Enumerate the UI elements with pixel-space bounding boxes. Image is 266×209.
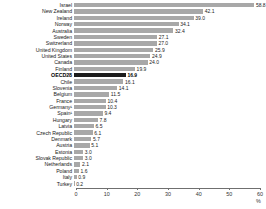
bar-track: 0.2: [74, 181, 266, 187]
x-axis-tick: [260, 188, 261, 190]
bar: [74, 9, 203, 13]
bar: [74, 130, 93, 134]
bar: [74, 111, 103, 115]
x-axis: 0102030405060: [76, 188, 260, 189]
x-axis-tick: [168, 188, 169, 190]
bar: [74, 143, 90, 147]
category-label: Turkey: [0, 181, 74, 187]
bar: [74, 41, 157, 45]
bar: [74, 124, 94, 128]
x-axis-tick-label: 10: [104, 191, 110, 197]
x-axis-tick: [76, 188, 77, 190]
bar: [74, 156, 83, 160]
x-axis-tick-label: 30: [165, 191, 171, 197]
bar: [74, 99, 106, 103]
x-axis-tick: [229, 188, 230, 190]
bar-value-label: 0.2: [75, 181, 84, 187]
chart-row: Turkey0.2: [0, 181, 266, 187]
bar: [74, 35, 157, 39]
bar: [74, 67, 135, 71]
chart-rows: Israel58.8New Zealand42.1Ireland39.0Norw…: [0, 2, 266, 187]
x-axis-tick-label: 40: [196, 191, 202, 197]
bar: [74, 150, 83, 154]
x-axis-unit-label: %: [256, 198, 261, 204]
bar: [74, 22, 179, 26]
bar: [74, 16, 194, 20]
bar: [74, 92, 109, 96]
bar: [74, 3, 254, 7]
x-axis-tick-label: 60: [257, 191, 263, 197]
bar: [74, 137, 91, 141]
bar: [74, 54, 150, 58]
bar: [74, 60, 148, 64]
x-axis-tick-label: 20: [134, 191, 140, 197]
x-axis-tick: [199, 188, 200, 190]
bar: [74, 28, 173, 32]
x-axis-tick: [137, 188, 138, 190]
bar: [74, 86, 117, 90]
bar: [74, 105, 106, 109]
bar: [74, 118, 98, 122]
x-axis-tick-label: 50: [226, 191, 232, 197]
bar: [74, 79, 123, 83]
x-axis-tick: [107, 188, 108, 190]
x-axis-tick-label: 0: [75, 191, 78, 197]
bar: [74, 48, 153, 52]
bar-chart: Israel58.8New Zealand42.1Ireland39.0Norw…: [0, 0, 266, 209]
bar: [74, 73, 126, 77]
